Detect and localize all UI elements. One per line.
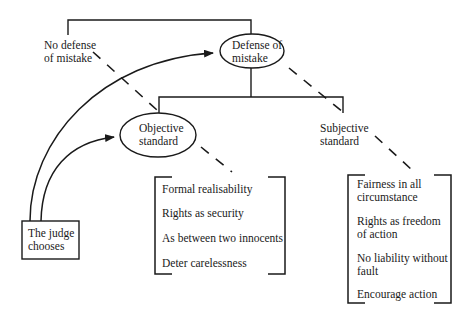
dashed-line-no-defense — [93, 52, 157, 110]
objective-value-item: As between two innocents — [162, 232, 283, 245]
subjective-value-item: Encourage action — [357, 288, 437, 301]
objective-right-bracket — [268, 177, 285, 274]
arrow-judge-to-objective — [41, 137, 114, 221]
subjective-value-line1: Fairness in all — [357, 178, 422, 191]
objective-standard-node: Objective standard — [139, 122, 184, 148]
no-defense-line1: No defense — [44, 39, 96, 52]
judge-chooses-node: The judge chooses — [28, 227, 74, 253]
subjective-value-line2: fault — [357, 265, 448, 278]
subjective-line2: standard — [320, 135, 369, 148]
no-defense-label: No defense of mistake — [44, 39, 96, 65]
subjective-value-line1: Encourage action — [357, 288, 437, 301]
standard-branch-line — [159, 97, 343, 113]
defense-line2: mistake — [232, 52, 282, 65]
dashed-line-defense — [289, 68, 343, 112]
objective-line2: standard — [139, 135, 184, 148]
top-branch-line — [68, 20, 251, 35]
subjective-value-line1: Rights as freedom — [357, 215, 441, 228]
judge-line1: The judge — [28, 227, 74, 240]
judge-line2: chooses — [28, 240, 74, 253]
subjective-value-item: Rights as freedom of action — [357, 215, 441, 240]
objective-value-item: Deter carelessness — [162, 257, 247, 270]
dashed-line-subjective — [375, 136, 412, 170]
defense-line1: Defense of — [232, 39, 282, 52]
no-defense-line2: of mistake — [44, 52, 96, 65]
subjective-line1: Subjective — [320, 122, 369, 135]
dashed-line-objective — [201, 147, 232, 172]
subjective-value-item: Fairness in all circumstance — [357, 178, 422, 203]
subjective-value-line1: No liability without — [357, 252, 448, 265]
defense-of-mistake-node: Defense of mistake — [232, 39, 282, 65]
objective-value-item: Rights as security — [162, 207, 244, 220]
subjective-standard-node: Subjective standard — [320, 122, 369, 148]
objective-line1: Objective — [139, 122, 184, 135]
subjective-value-line2: circumstance — [357, 191, 422, 204]
subjective-value-line2: of action — [357, 228, 441, 241]
objective-value-item: Formal realisability — [162, 183, 252, 196]
subjective-value-item: No liability without fault — [357, 252, 448, 277]
